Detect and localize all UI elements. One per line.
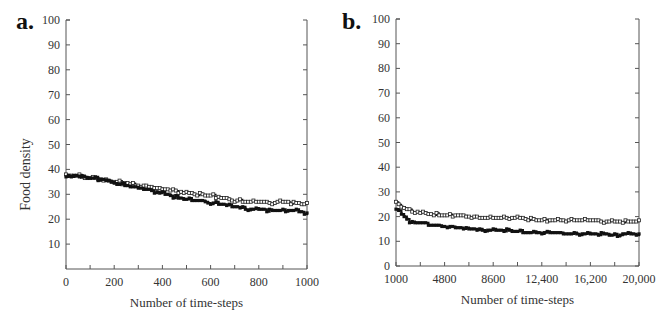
chart-b: 010203040506070809010010004800860012,400… (335, 0, 669, 328)
series-filled-markers (64, 174, 308, 216)
x-tick-label: 16,200 (574, 272, 607, 286)
y-tick-label: 80 (48, 63, 60, 77)
series-open-markers (395, 200, 641, 224)
x-tick-label: 1000 (384, 272, 408, 286)
y-tick-label: 70 (48, 88, 60, 102)
y-tick-label: 90 (378, 37, 390, 51)
y-tick-label: 20 (378, 210, 390, 224)
chart-a: 10203040506070809010002004006008001000Nu… (0, 0, 335, 328)
y-tick-label: 70 (378, 86, 390, 100)
y-axis-title: Food density (18, 138, 33, 211)
panel-b: b. 010203040506070809010010004800860012,… (335, 0, 669, 328)
x-tick-label: 1000 (295, 275, 319, 289)
x-tick-label: 600 (202, 275, 220, 289)
x-tick-label: 8600 (481, 272, 505, 286)
y-tick-label: 40 (48, 162, 60, 176)
y-tick-label: 10 (378, 234, 390, 248)
y-tick-label: 50 (378, 136, 390, 150)
x-tick-label: 200 (105, 275, 123, 289)
y-tick-label: 50 (48, 138, 60, 152)
x-tick-label: 12,400 (525, 272, 558, 286)
x-axis-title: Number of time-steps (461, 292, 574, 307)
y-tick-label: 0 (384, 259, 390, 273)
x-tick-label: 0 (63, 275, 69, 289)
y-tick-label: 40 (378, 160, 390, 174)
y-tick-label: 80 (378, 61, 390, 75)
y-tick-label: 10 (48, 237, 60, 251)
x-axis-title: Number of time-steps (130, 295, 243, 310)
x-tick-label: 20,000 (623, 272, 656, 286)
y-tick-label: 90 (48, 38, 60, 52)
y-tick-label: 60 (48, 113, 60, 127)
panel-a: a. 1020304050607080901000200400600800100… (0, 0, 335, 328)
y-tick-label: 30 (378, 185, 390, 199)
x-tick-label: 4800 (433, 272, 457, 286)
y-tick-label: 100 (372, 12, 390, 26)
y-tick-label: 100 (42, 13, 60, 27)
x-tick-label: 400 (153, 275, 171, 289)
x-tick-label: 800 (250, 275, 268, 289)
y-tick-label: 30 (48, 187, 60, 201)
y-tick-label: 20 (48, 212, 60, 226)
y-tick-label: 60 (378, 111, 390, 125)
